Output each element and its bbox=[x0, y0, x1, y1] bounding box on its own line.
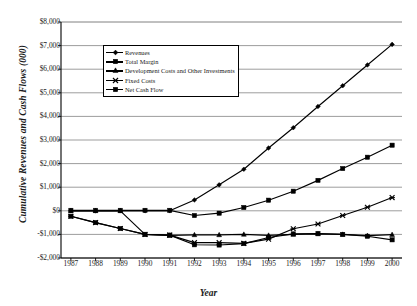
x-axis-title: Year bbox=[0, 288, 417, 298]
y-tick-label: $3,000 bbox=[16, 136, 60, 144]
y-tick-label: $7,000 bbox=[16, 42, 60, 50]
legend-item: Net Cash Flow bbox=[106, 85, 235, 94]
y-tick-label: $5,000 bbox=[16, 89, 60, 97]
chart-container: Cumulative Revenues and Cash Flows (000)… bbox=[0, 0, 417, 306]
series-total-margin bbox=[69, 143, 394, 218]
legend-item: Total Margin bbox=[106, 57, 235, 66]
legend: RevenuesTotal MarginDevelopment Costs an… bbox=[103, 45, 239, 97]
filled-square-marker-icon bbox=[106, 85, 123, 94]
y-tick-label: $4,000 bbox=[16, 112, 60, 120]
legend-label: Development Costs and Other Investments bbox=[125, 67, 235, 74]
y-tick-label: $0 bbox=[16, 207, 60, 215]
x-marker-icon bbox=[106, 76, 123, 85]
x-tick-label: 2000 bbox=[372, 259, 412, 268]
legend-label: Net Cash Flow bbox=[125, 86, 163, 93]
legend-item: Development Costs and Other Investments bbox=[106, 66, 235, 75]
legend-label: Fixed Costs bbox=[125, 77, 155, 84]
series-development-costs-and-other-investments bbox=[68, 208, 394, 237]
y-tick-label: $8,000 bbox=[16, 18, 60, 26]
legend-item: Revenues bbox=[106, 48, 235, 57]
legend-label: Total Margin bbox=[125, 58, 158, 65]
y-tick-label: $1,000 bbox=[16, 183, 60, 191]
legend-label: Revenues bbox=[125, 49, 150, 56]
square-marker-icon bbox=[106, 57, 123, 66]
series-fixed-costs bbox=[68, 195, 395, 246]
y-tick-label: $2,000 bbox=[16, 160, 60, 168]
y-tick-label: $6,000 bbox=[16, 65, 60, 73]
diamond-marker-icon bbox=[106, 48, 123, 57]
x-axis-tick-labels: 1987198819891990199119921993199419951996… bbox=[0, 259, 417, 273]
series-net-cash-flow bbox=[69, 214, 394, 247]
legend-item: Fixed Costs bbox=[106, 76, 235, 85]
triangle-marker-icon bbox=[106, 66, 123, 75]
y-tick-label: -$1,000 bbox=[16, 230, 60, 238]
